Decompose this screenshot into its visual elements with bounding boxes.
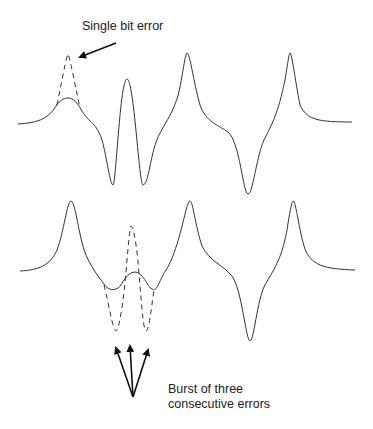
diagram-canvas xyxy=(0,0,373,429)
burst-error-label-line2: consecutive errors xyxy=(168,397,270,412)
top-waveform-line xyxy=(18,53,352,194)
single-bit-error-label: Single bit error xyxy=(82,19,163,34)
burst-error-label: Burst of three consecutive errors xyxy=(168,382,270,412)
bottom-original-pulses-dashed xyxy=(104,226,154,331)
burst-error-waveform xyxy=(20,201,355,341)
bottom-waveform-line xyxy=(20,201,355,341)
single-bit-error-waveform xyxy=(18,53,352,194)
burst-error-label-line1: Burst of three xyxy=(168,382,270,397)
top-original-pulse-dashed xyxy=(57,54,80,108)
burst-error-arrows xyxy=(116,346,148,397)
single-error-arrow xyxy=(80,43,116,57)
